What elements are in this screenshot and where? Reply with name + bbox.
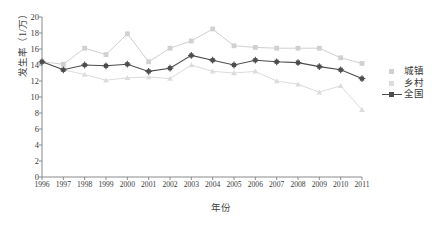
series-line xyxy=(42,55,362,78)
x-tick-label: 1998 xyxy=(77,180,92,189)
y-tick-label: 14 xyxy=(31,60,40,70)
marker-square xyxy=(317,46,322,51)
legend-label: 城镇 xyxy=(404,66,424,78)
x-tick-label: 2002 xyxy=(162,180,177,189)
x-tick-label: 2005 xyxy=(226,180,241,189)
legend-item-全国[interactable]: 全国 xyxy=(382,89,424,101)
series-line xyxy=(42,29,362,64)
x-tick-label: 1997 xyxy=(56,180,71,189)
x-tick-label: 2000 xyxy=(120,180,135,189)
x-tick-label: 1999 xyxy=(98,180,113,189)
y-tick-label: 2 xyxy=(35,156,39,166)
y-tick-label: 12 xyxy=(31,76,40,86)
data-point-star-marker xyxy=(295,59,302,66)
marker-triangle xyxy=(338,83,344,88)
data-point-star-marker xyxy=(252,57,259,64)
y-axis-label: 发生率（1/万） xyxy=(15,0,29,103)
y-tick-label: 4 xyxy=(35,140,39,150)
data-point-star-marker xyxy=(60,66,67,73)
legend-marker xyxy=(389,81,394,86)
x-tick-label: 2009 xyxy=(312,180,327,189)
x-tick-label: 2011 xyxy=(355,180,370,189)
x-tick-label: 2004 xyxy=(205,180,220,189)
marker-square xyxy=(146,59,151,64)
marker-square xyxy=(232,43,237,48)
marker-square xyxy=(210,27,215,32)
marker-square xyxy=(125,31,130,36)
y-tick-label: 18 xyxy=(31,28,40,38)
marker-square xyxy=(360,61,365,66)
legend-marker xyxy=(389,69,394,74)
data-point-square-marker xyxy=(168,46,173,51)
chart-legend: 城镇乡村全国 xyxy=(382,66,424,101)
legend-swatch-icon xyxy=(382,78,402,89)
data-point-star-marker xyxy=(231,62,238,69)
data-point-star-marker xyxy=(273,58,280,65)
marker-triangle xyxy=(189,62,195,67)
data-point-star-marker xyxy=(81,62,88,69)
marker-square xyxy=(274,46,279,51)
data-point-square-marker xyxy=(274,46,279,51)
data-point-star-marker xyxy=(145,68,152,75)
legend-label: 全国 xyxy=(404,89,424,101)
x-tick-label: 2007 xyxy=(269,180,284,189)
marker-square xyxy=(253,45,258,50)
y-tick-label: 10 xyxy=(31,92,40,102)
axes xyxy=(39,17,362,180)
data-point-square-marker xyxy=(210,27,215,32)
marker-square xyxy=(104,52,109,57)
y-tick-label: 16 xyxy=(31,44,40,54)
y-tick-label: 20 xyxy=(31,12,40,22)
marker-square xyxy=(82,46,87,51)
series-layer xyxy=(39,27,366,112)
data-point-square-marker xyxy=(232,43,237,48)
marker-square xyxy=(189,39,194,44)
marker-square xyxy=(168,46,173,51)
x-tick-label: 1996 xyxy=(34,180,49,189)
data-point-square-marker xyxy=(189,39,194,44)
data-point-square-marker xyxy=(253,45,258,50)
x-tick-label: 2006 xyxy=(248,180,263,189)
data-point-square-marker xyxy=(61,62,66,67)
chart-figure: 发生率（1/万） 02468101214161820 1996199719981… xyxy=(0,0,442,228)
x-axis-label: 年份 xyxy=(0,200,442,214)
data-point-square-marker xyxy=(82,46,87,51)
marker-square xyxy=(296,46,301,51)
legend-item-乡村[interactable]: 乡村 xyxy=(382,78,424,90)
legend-label: 乡村 xyxy=(404,78,424,90)
data-point-square-marker xyxy=(360,61,365,66)
x-tick-label: 2010 xyxy=(333,180,348,189)
legend-marker xyxy=(389,92,394,97)
data-point-star-marker xyxy=(337,66,344,73)
data-point-square-marker xyxy=(125,31,130,36)
data-point-star-marker xyxy=(167,65,174,72)
series-3 xyxy=(39,52,366,82)
data-point-star-marker xyxy=(209,57,216,64)
data-point-triangle-marker xyxy=(189,62,195,67)
marker-square xyxy=(338,55,343,60)
legend-item-城镇[interactable]: 城镇 xyxy=(382,66,424,78)
data-point-triangle-marker xyxy=(274,78,280,83)
legend-swatch-icon xyxy=(382,66,402,77)
x-tick-label: 2008 xyxy=(290,180,305,189)
data-point-star-marker xyxy=(103,62,110,69)
series-1 xyxy=(40,27,365,67)
data-point-triangle-marker xyxy=(338,83,344,88)
series-line xyxy=(42,62,362,110)
data-point-square-marker xyxy=(104,52,109,57)
data-point-star-marker xyxy=(188,52,195,59)
marker-triangle xyxy=(274,78,280,83)
marker-square xyxy=(61,62,66,67)
data-point-star-marker xyxy=(316,63,323,70)
data-point-square-marker xyxy=(338,55,343,60)
x-tick-label: 2001 xyxy=(141,180,156,189)
plot-area: 02468101214161820 1996199719981999200020… xyxy=(42,17,362,177)
x-tick-label: 2003 xyxy=(184,180,199,189)
data-point-square-marker xyxy=(317,46,322,51)
legend-swatch-icon xyxy=(382,89,402,100)
data-point-square-marker xyxy=(146,59,151,64)
data-point-star-marker xyxy=(359,75,366,82)
data-point-star-marker xyxy=(124,61,131,68)
y-tick-label: 6 xyxy=(35,124,39,134)
data-point-square-marker xyxy=(296,46,301,51)
